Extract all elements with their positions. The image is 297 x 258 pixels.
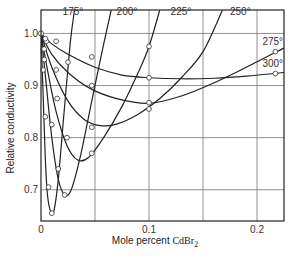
data-point (65, 135, 70, 140)
data-point (89, 151, 94, 156)
data-point (42, 57, 47, 62)
data-point (89, 83, 94, 88)
series-labels: 175°200°225°250°275°300° (63, 6, 283, 69)
y-axis-label: Relative conductivity (5, 82, 16, 173)
x-tick-label: 0 (38, 224, 44, 235)
x-axis-label-main: Mole percent (112, 235, 173, 246)
grid-lines (41, 10, 284, 221)
data-point (89, 125, 94, 130)
series-label: 175° (63, 6, 84, 17)
data-point (147, 44, 152, 49)
x-axis-label: Mole percent CdBr2 (112, 235, 198, 249)
data-point (54, 39, 59, 44)
conductivity-chart: 0.70.80.91.0 00.10.2 175°200°225°250°275… (0, 0, 297, 258)
data-point (43, 36, 48, 41)
series-label: 250° (230, 6, 251, 17)
data-point (49, 122, 54, 127)
y-tick-labels: 0.70.80.91.0 (24, 28, 38, 195)
x-axis-label-subscript: 2 (194, 240, 198, 249)
curve-275 (41, 33, 284, 103)
curve-200 (41, 10, 111, 196)
data-point (56, 167, 61, 172)
x-tick-label: 0.1 (142, 224, 156, 235)
data-point (66, 60, 71, 65)
x-tick-label: 0.2 (250, 224, 264, 235)
y-tick-label: 0.8 (24, 132, 38, 143)
y-tick-label: 0.9 (24, 80, 38, 91)
data-point (273, 71, 278, 76)
data-point (147, 75, 152, 80)
data-points (38, 31, 277, 216)
data-point (43, 114, 48, 119)
x-tick-labels: 00.10.2 (38, 224, 264, 235)
data-point (55, 96, 60, 101)
y-tick-label: 0.7 (24, 184, 38, 195)
series-label: 275° (262, 36, 283, 47)
data-point (147, 107, 152, 112)
series-label: 225° (171, 6, 192, 17)
data-point (42, 47, 47, 52)
data-point (46, 185, 51, 190)
x-axis-label-formula: CdBr (172, 235, 194, 246)
y-tick-label: 1.0 (24, 28, 38, 39)
data-curves (41, 10, 284, 214)
data-point (147, 100, 152, 105)
data-point (89, 54, 94, 59)
series-label: 200° (117, 6, 138, 17)
curve-300 (41, 33, 284, 78)
series-label: 300° (262, 58, 283, 69)
data-point (54, 68, 59, 73)
data-point (62, 193, 67, 198)
data-point (49, 211, 54, 216)
data-point (273, 49, 278, 54)
